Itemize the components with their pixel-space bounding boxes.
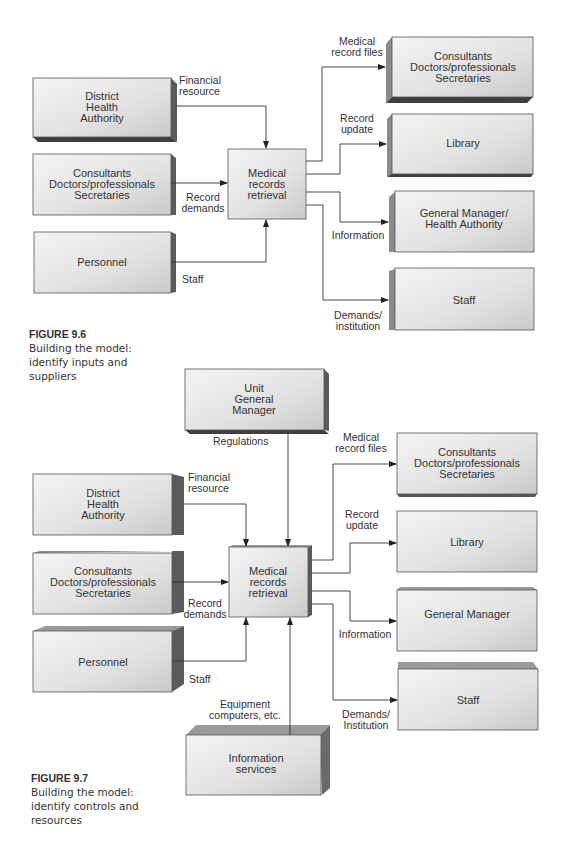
flow-label-record-update: Recordupdate (345, 508, 379, 531)
svg-text:Medicalrecordsretrieval: Medicalrecordsretrieval (248, 565, 287, 599)
flow-label-demands-institution: Demands/Institution (342, 708, 390, 731)
flow-label-record-demands: Recorddemands (183, 597, 226, 620)
svg-text:Personnel: Personnel (78, 656, 128, 668)
caption-line: Building the model: (29, 341, 132, 355)
resource-box-information-services: Informationservices (186, 725, 330, 795)
figure-caption-9-7: FIGURE 9.7 Building the model: identify … (31, 771, 139, 827)
flow-label-equipment-computers: Equipmentcomputers, etc. (209, 698, 281, 721)
caption-line: Building the model: (31, 785, 139, 799)
figure-number: FIGURE 9.6 (29, 327, 132, 341)
supplier-box-district-health-authority: DistrictHealthAuthority (33, 474, 184, 535)
flow-label-information: Information (332, 229, 385, 241)
caption-line: resources (31, 813, 139, 827)
control-box-unit-general-manager: UnitGeneralManager (185, 369, 329, 434)
flow-label-information: Information (339, 628, 392, 640)
flow-label-medical-record-files: Medicalrecord files (331, 35, 382, 58)
flow-label-staff-in: Staff (182, 273, 203, 285)
flow-label-regulations: Regulations (213, 435, 268, 447)
svg-text:Library: Library (450, 536, 484, 548)
customer-box-consultants: ConsultantsDoctors/professionalsSecretar… (397, 433, 537, 497)
flow-label-record-update: Recordupdate (340, 112, 374, 135)
customer-box-library: Library (387, 114, 533, 177)
figure-9-6: DistrictHealthAuthority ConsultantsDocto… (33, 35, 534, 332)
flow-label-financial-resource: Financialresource (179, 74, 221, 97)
flow-label-record-demands: Recorddemands (181, 191, 224, 214)
supplier-box-district-health-authority: DistrictHealthAuthority (33, 78, 177, 142)
svg-text:General Manager/Health Authori: General Manager/Health Authority (420, 207, 510, 230)
svg-text:Staff: Staff (453, 294, 476, 306)
svg-text:General Manager: General Manager (424, 608, 510, 620)
svg-text:DistrictHealthAuthority: DistrictHealthAuthority (80, 90, 124, 124)
svg-text:Medicalrecordsretrieval: Medicalrecordsretrieval (247, 167, 286, 201)
customer-box-staff: Staff (398, 662, 538, 730)
svg-text:Staff: Staff (457, 694, 480, 706)
customer-box-general-manager-health-authority: General Manager/Health Authority (389, 191, 534, 252)
customer-box-staff: Staff (389, 268, 534, 330)
customer-box-general-manager: General Manager (397, 587, 537, 651)
process-box-medical-records-retrieval: Medicalrecordsretrieval (228, 149, 306, 219)
customer-box-library: Library (397, 511, 537, 572)
svg-text:DistrictHealthAuthority: DistrictHealthAuthority (81, 487, 125, 521)
supplier-box-consultants: ConsultantsDoctors/professionalsSecretar… (33, 154, 176, 215)
flow-label-staff-in: Staff (189, 673, 210, 685)
caption-line: identify controls and (31, 799, 139, 813)
figure-9-7: UnitGeneralManager DistrictHealthAuthori… (33, 369, 538, 795)
supplier-box-personnel: Personnel (33, 626, 184, 692)
flow-label-medical-record-files: Medicalrecord files (335, 431, 386, 454)
flow-label-financial-resource: Financialresource (188, 471, 230, 494)
supplier-box-personnel: Personnel (34, 232, 176, 293)
supplier-box-consultants: ConsultantsDoctors/professionalsSecretar… (33, 551, 184, 614)
diagram-canvas: DistrictHealthAuthority ConsultantsDocto… (0, 0, 566, 851)
figure-number: FIGURE 9.7 (31, 771, 139, 785)
svg-text:Library: Library (446, 137, 480, 149)
caption-line: suppliers (29, 369, 132, 383)
customer-box-consultants: ConsultantsDoctors/professionalsSecretar… (386, 37, 533, 103)
caption-line: identify inputs and (29, 355, 132, 369)
svg-text:Personnel: Personnel (77, 256, 127, 268)
flow-label-demands-institution: Demands/institution (334, 309, 382, 332)
svg-text:Informationservices: Informationservices (228, 752, 283, 775)
figure-caption-9-6: FIGURE 9.6 Building the model: identify … (29, 327, 132, 383)
process-box-medical-records-retrieval: Medicalrecordsretrieval (229, 545, 312, 617)
